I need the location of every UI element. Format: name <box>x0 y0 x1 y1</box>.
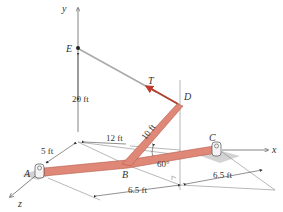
point-B-label: B <box>122 170 128 180</box>
x-axis-label: x <box>272 145 276 155</box>
dim-x-to-B: 12 ft <box>106 134 123 143</box>
dim-z-offset: 5 ft <box>41 147 53 156</box>
point-E-label: E <box>66 44 72 54</box>
force-T-label: T <box>148 76 154 86</box>
bearing-A <box>35 164 44 178</box>
bearing-C <box>212 142 221 156</box>
point-D-label: D <box>184 92 191 102</box>
dim-angle: 60° <box>157 160 170 169</box>
dim-foot-C: 6.5 ft <box>213 171 232 180</box>
point-A-label: A <box>24 169 30 179</box>
dim-AB-foot: 6.5 ft <box>128 186 147 195</box>
point-E-marker <box>76 46 80 50</box>
z-axis-label: z <box>18 199 22 209</box>
diagram-canvas: y x z E D A B C T 20 ft 5 ft 12 ft 10 ft… <box>0 0 283 212</box>
cable-ED <box>79 49 180 105</box>
dim-height-E: 20 ft <box>72 95 89 104</box>
y-axis-label: y <box>62 4 66 14</box>
point-C-label: C <box>209 133 216 143</box>
